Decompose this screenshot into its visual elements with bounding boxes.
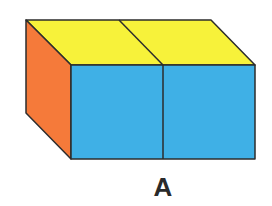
cuboid-drawing xyxy=(0,0,272,206)
figure-label: A xyxy=(143,173,183,201)
diagram-canvas: A xyxy=(0,0,272,206)
